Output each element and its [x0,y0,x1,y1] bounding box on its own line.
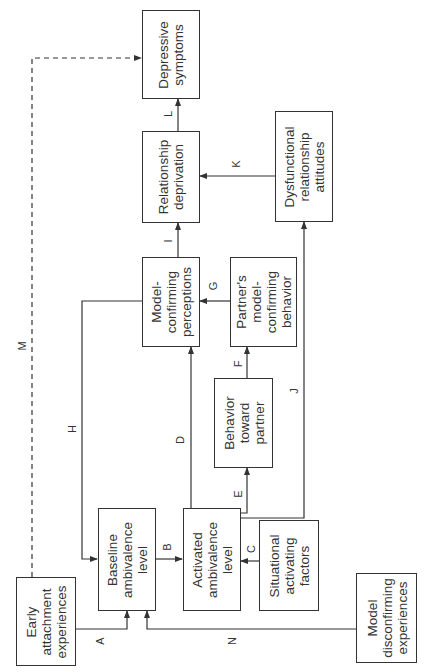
node-label: Relationship deprivation [156,140,186,214]
edge-label-k: K [230,160,242,167]
edge-n [147,611,356,629]
edge-label-f: F [232,361,244,368]
edge-label-h: H [66,425,78,433]
edge-label-d: D [174,436,186,444]
node-dysfunctional-relationship-attitudes: Dysfunctional relationship attitudes [275,111,333,222]
edge-label-n: N [226,637,238,645]
node-label: Baseline ambivalence level [105,522,150,598]
node-partners-model-confirming-behavior: Partner's model- confirming behavior [230,257,297,347]
node-depressive-symptoms: Depressive symptoms [142,10,200,99]
node-label: Model- confirming perceptions [149,267,194,337]
edge-a [75,611,127,629]
node-activated-ambivalence-level: Activated ambivalence level [183,508,241,611]
edge-label-i: I [162,239,174,242]
node-label: Early attachment experiences [24,585,69,658]
node-model-confirming-perceptions: Model- confirming perceptions [142,257,200,347]
edge-m [32,58,141,577]
node-label: Model disconfirming experiences [364,578,409,658]
node-relationship-deprivation: Relationship deprivation [142,131,200,223]
node-behavior-toward-partner: Behavior toward partner [214,378,273,468]
edge-label-e: E [232,490,244,497]
node-label: Situational activating factors [267,534,312,597]
node-situational-activating-factors: Situational activating factors [259,520,319,611]
node-label: Partner's model- confirming behavior [234,271,294,333]
node-label: Dysfunctional relationship attitudes [282,126,327,207]
edge-label-a: A [94,637,106,644]
edge-label-m: M [16,341,28,350]
node-label: Activated ambivalence level [190,522,235,598]
edge-label-g: G [207,282,219,291]
node-early-attachment-experiences: Early attachment experiences [16,577,76,666]
node-model-disconfirming-experiences: Model disconfirming experiences [356,573,417,663]
node-baseline-ambivalence-level: Baseline ambivalence level [98,508,156,611]
edge-label-j: J [288,388,300,394]
attachment-ambivalence-diagram: Early attachment experiences Baseline am… [0,0,437,672]
node-label: Behavior toward partner [221,396,266,449]
edge-label-c: C [245,545,257,553]
node-label: Depressive symptoms [156,21,186,89]
edge-label-l: L [162,111,174,117]
edge-label-b: B [161,543,173,550]
